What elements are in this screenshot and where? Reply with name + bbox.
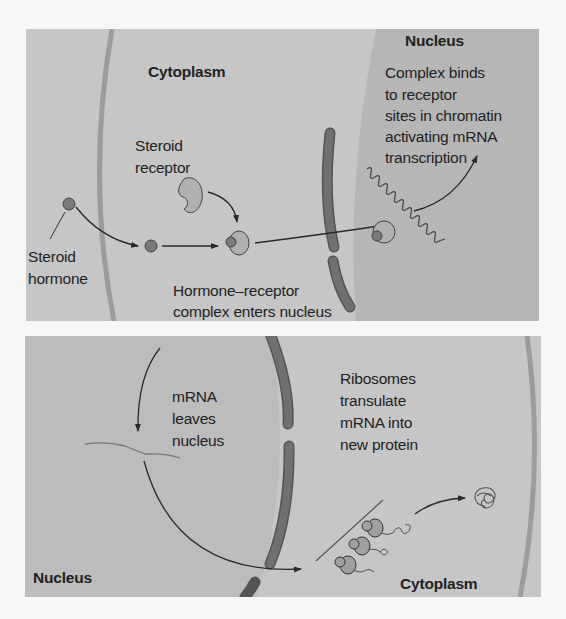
steroid-receptor-label-line1: Steroid: [135, 135, 183, 156]
bottom-nucleus-region: [25, 336, 280, 597]
steroid-receptor-label-line2: receptor: [135, 157, 190, 178]
ribosomes-label-line4: new protein: [340, 434, 418, 455]
complex-binds-label-line1: Complex binds: [385, 62, 485, 83]
complex-binds-label-line4: activating mRNA: [385, 126, 497, 147]
top-nucleus-label: Nucleus: [405, 30, 464, 51]
ribosomes-label-line1: Ribosomes: [340, 368, 416, 389]
mrna-leaves-label-line2: leaves: [172, 408, 216, 429]
complex-enters-label-line2: complex enters nucleus: [173, 301, 331, 322]
steroid-hormone-inside-icon: [145, 240, 157, 252]
bound-hormone-icon: [372, 231, 382, 241]
bottom-nucleus-label: Nucleus: [33, 567, 92, 588]
mrna-leaves-label-line1: mRNA: [172, 386, 217, 407]
steroid-hormone-label-line2: hormone: [28, 268, 88, 289]
complex-binds-label-line3: sites in chromatin: [385, 105, 502, 126]
top-cytoplasm-label: Cytoplasm: [148, 61, 225, 82]
ribosomes-label-line3: mRNA into: [340, 412, 412, 433]
bottom-panel: [25, 336, 541, 597]
ribosomes-label-line2: transulate: [340, 390, 406, 411]
mrna-leaves-label-line3: nucleus: [172, 430, 224, 451]
steroid-hormone-label-line1: Steroid: [28, 246, 76, 267]
complex-binds-label-line2: to receptor: [385, 84, 457, 105]
bottom-cytoplasm-label: Cytoplasm: [400, 573, 477, 594]
complex-hormone-icon: [226, 237, 236, 247]
complex-enters-label-line1: Hormone–receptor: [173, 280, 299, 301]
complex-binds-label-line5: transcription: [385, 147, 467, 168]
steroid-hormone-icon: [63, 198, 75, 210]
